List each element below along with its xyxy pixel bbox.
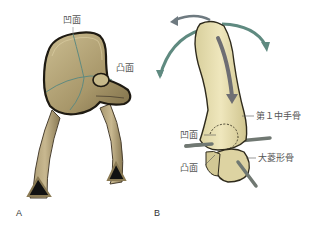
rotation-arrowhead-right bbox=[261, 42, 270, 52]
label-convex-a: 凸面 bbox=[116, 64, 134, 73]
label-trapezium: 大菱形骨 bbox=[258, 154, 294, 163]
label-convex-b: 凸面 bbox=[180, 164, 198, 173]
saddle-model bbox=[28, 32, 130, 198]
saddle-knob bbox=[93, 74, 109, 87]
panel-label-b: B bbox=[154, 209, 160, 218]
thumb-cmc-joint bbox=[156, 16, 270, 186]
axis-rod-front-left bbox=[186, 144, 212, 146]
panel-label-a: A bbox=[16, 209, 22, 218]
label-first-metacarpal: 第１中手骨 bbox=[256, 112, 301, 121]
rotation-arrow-left bbox=[160, 30, 200, 76]
rotation-arrow-top bbox=[175, 16, 210, 20]
label-concave-b: 凹面 bbox=[180, 131, 198, 140]
saddle-surface bbox=[44, 32, 130, 114]
label-concave-a: 凹面 bbox=[63, 16, 81, 25]
rotation-arrowhead-left bbox=[156, 70, 164, 79]
